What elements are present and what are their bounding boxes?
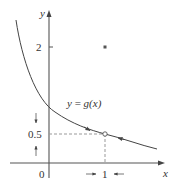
origin-label: 0 bbox=[39, 168, 45, 180]
x-axis-label: x bbox=[162, 167, 168, 179]
x-axis-arrow-icon bbox=[158, 161, 165, 166]
limit-diagram: y x 2 0.5 0 1 y = g(x) bbox=[0, 0, 170, 188]
x-axis bbox=[10, 161, 165, 166]
filled-point bbox=[104, 46, 107, 49]
hole-point bbox=[103, 132, 107, 136]
y-tick-label-0.5: 0.5 bbox=[28, 128, 42, 140]
y-axis-arrow-icon bbox=[47, 10, 52, 17]
function-label-x: (x) bbox=[89, 97, 102, 110]
x-tick-label-1: 1 bbox=[102, 168, 108, 180]
y-axis-label: y bbox=[39, 7, 45, 19]
y-tick-label-2: 2 bbox=[36, 41, 42, 53]
function-label-eq: = bbox=[72, 97, 84, 109]
y-axis bbox=[47, 10, 52, 178]
function-label: y = g(x) bbox=[66, 97, 102, 110]
